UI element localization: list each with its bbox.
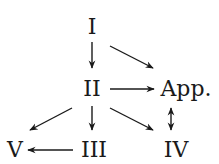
edge-I-to-App-arrow [110, 46, 153, 68]
edge-II-to-V-arrow [30, 108, 72, 130]
edge-II-to-IV-arrow [110, 108, 153, 130]
diagram-canvas: I II App. III IV V [0, 0, 219, 164]
node-IV: IV [164, 139, 189, 161]
node-I: I [88, 16, 97, 38]
node-III: III [81, 139, 107, 161]
node-II: II [83, 78, 100, 100]
node-App: App. [160, 78, 211, 100]
node-V: V [7, 139, 23, 161]
